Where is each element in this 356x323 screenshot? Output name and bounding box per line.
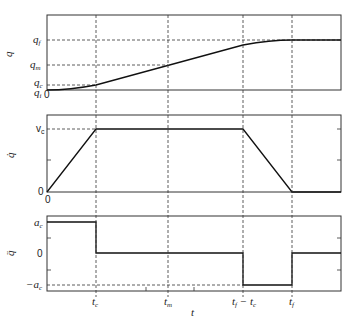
x-axis-title: t [191, 306, 195, 318]
velocity-ylabel: q̇ [4, 152, 16, 158]
position-panel: q qf qm qc qi 0 [2, 15, 341, 100]
velocity-zero-x-label: 0 [45, 194, 51, 205]
tc-tick-label: tc [92, 295, 99, 309]
acceleration-zero-label: 0 [37, 248, 43, 259]
velocity-axes-frame [47, 115, 341, 192]
position-curve [47, 40, 341, 90]
velocity-panel: q̇ vc 0 0 [4, 115, 341, 205]
position-axes-frame [47, 15, 341, 90]
tf-tick-label: tf [289, 295, 295, 309]
position-ylabel: q [2, 51, 14, 57]
qf-label: qf [33, 33, 42, 47]
acceleration-ylabel: q̈ [4, 250, 16, 256]
vc-label: vc [36, 123, 45, 135]
trajectory-chart: q qf qm qc qi 0 q̇ vc 0 0 q̈ ac 0 −ac [0, 0, 356, 323]
tm-tick-label: tm [164, 295, 172, 309]
ac-label: ac [34, 216, 44, 230]
minus-ac-label: −ac [26, 278, 43, 292]
velocity-zero-y-label: 0 [38, 186, 44, 197]
qm-label: qm [30, 58, 41, 72]
acceleration-curve [47, 222, 341, 285]
tf-minus-tc-tick-label: tf − tc [232, 295, 257, 309]
time-reference-lines [96, 15, 292, 297]
velocity-curve [47, 129, 341, 192]
position-zero-label: 0 [44, 89, 50, 100]
x-axis-labels: tc tm tf − tc tf t [92, 295, 295, 318]
acceleration-panel: q̈ ac 0 −ac [4, 216, 341, 292]
